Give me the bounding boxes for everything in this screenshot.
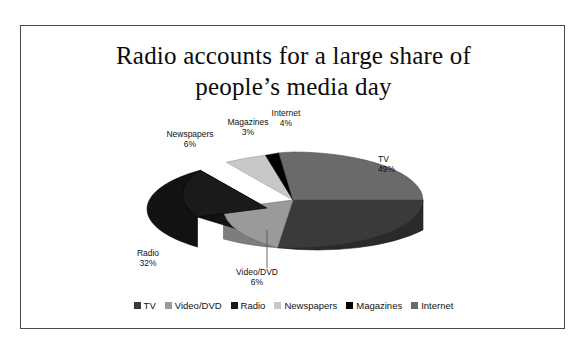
legend-swatch-tv-icon	[134, 302, 141, 309]
legend-item-videodvd[interactable]: Video/DVD	[165, 300, 222, 311]
legend-item-newspapers[interactable]: Newspapers	[274, 300, 337, 311]
legend-swatch-magazines-icon	[346, 302, 353, 309]
legend-label-videodvd: Video/DVD	[175, 300, 222, 311]
legend-item-internet[interactable]: Internet	[411, 300, 453, 311]
legend-swatch-newspapers-icon	[274, 302, 281, 309]
legend-swatch-videodvd-icon	[165, 302, 172, 309]
legend-swatch-radio-icon	[231, 302, 238, 309]
legend-label-magazines: Magazines	[356, 300, 402, 311]
pie-label-radio-name: Radio	[137, 248, 159, 258]
pie-label-videodvd: Video/DVD 6%	[217, 267, 297, 287]
pie-label-internet-pct: 4%	[260, 118, 312, 128]
pie-label-tv-pct: 49%	[378, 164, 418, 174]
legend-item-tv[interactable]: TV	[134, 300, 156, 311]
pie-chart-plot-area: TV 49% Video/DVD 6% Radio 32% Newspapers…	[21, 112, 566, 297]
pie-label-tv: TV 49%	[378, 154, 418, 174]
pie-label-internet-name: Internet	[272, 108, 301, 118]
legend-label-radio: Radio	[241, 300, 266, 311]
legend-label-newspapers: Newspapers	[284, 300, 337, 311]
pie-label-radio-pct: 32%	[118, 258, 178, 268]
chart-frame: Radio accounts for a large share of peop…	[20, 25, 565, 329]
legend-label-internet: Internet	[421, 300, 453, 311]
chart-title-line-1: Radio accounts for a large share of	[21, 40, 566, 71]
pie-slice-tv	[278, 200, 423, 248]
legend-item-radio[interactable]: Radio	[231, 300, 266, 311]
chart-title: Radio accounts for a large share of peop…	[21, 40, 566, 102]
pie-label-newspapers: Newspapers 6%	[153, 129, 227, 149]
pie-label-newspapers-pct: 6%	[153, 139, 227, 149]
pie-label-magazines-pct: 3%	[217, 127, 279, 137]
pie-label-internet: Internet 4%	[260, 108, 312, 128]
legend-swatch-internet-icon	[411, 302, 418, 309]
pie-label-radio: Radio 32%	[118, 248, 178, 268]
pie-label-newspapers-name: Newspapers	[166, 129, 213, 139]
legend-label-tv: TV	[144, 300, 156, 311]
chart-title-line-2: people’s media day	[21, 71, 566, 102]
pie-label-tv-name: TV	[378, 154, 389, 164]
pie-label-videodvd-name: Video/DVD	[236, 267, 278, 277]
pie-label-videodvd-pct: 6%	[217, 277, 297, 287]
chart-legend: TV Video/DVD Radio Newspapers Magazines …	[21, 300, 566, 311]
legend-item-magazines[interactable]: Magazines	[346, 300, 402, 311]
